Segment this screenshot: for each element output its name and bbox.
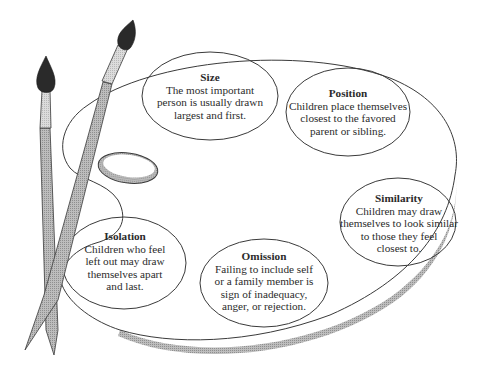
size-line-2: person is usually drawn [142,96,278,109]
palette-diagram [0,0,480,373]
similarity-line-2: themselves to look similar [338,217,460,230]
position-line-3: parent or sibling. [284,125,412,138]
size-line-3: largest and first. [142,109,278,122]
isolation-line-1: Children who feel [64,243,186,256]
similarity-title: Similarity [338,192,460,205]
omission-line-4: anger, or rejection. [198,300,330,313]
omission-line-2: or a family member is [198,275,330,288]
omission-line-3: sign of inadequacy, [198,288,330,301]
position-line-2: closest to the favored [284,112,412,125]
similarity-line-4: closest to. [338,242,460,255]
position-line-1: Children place themselves [284,100,412,113]
similarity-bubble: Similarity Children may draw themselves … [338,192,460,255]
isolation-bubble: Isolation Children who feel left out may… [64,230,186,293]
size-bubble: Size The most important person is usuall… [142,71,278,121]
similarity-line-1: Children may draw [338,205,460,218]
similarity-line-3: to those they feel [338,230,460,243]
isolation-line-3: themselves apart [64,268,186,281]
size-title: Size [142,71,278,84]
position-bubble: Position Children place themselves close… [284,87,412,137]
position-title: Position [284,87,412,100]
isolation-line-2: left out may draw [64,255,186,268]
omission-line-1: Failing to include self [198,263,330,276]
omission-title: Omission [198,250,330,263]
isolation-title: Isolation [64,230,186,243]
size-line-1: The most important [142,84,278,97]
isolation-line-4: and last. [64,280,186,293]
omission-bubble: Omission Failing to include self or a fa… [198,250,330,313]
